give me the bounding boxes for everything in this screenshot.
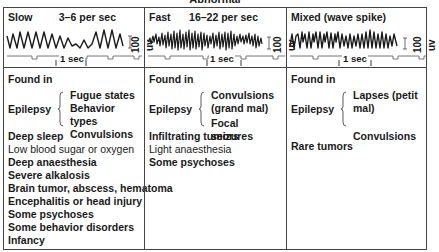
brace-icon bbox=[341, 91, 347, 127]
condition-item: Some behavior disorders bbox=[8, 221, 140, 234]
time-scale-label: 1 sec bbox=[59, 53, 85, 64]
column-slow: Slow 3–6 per sec 1 sec 100 uv Found in E… bbox=[4, 8, 144, 249]
wave-rate-label: 3–6 per sec bbox=[59, 11, 116, 23]
wave-type-label: Slow bbox=[8, 11, 33, 23]
epilepsy-group: Epilepsy Fugue states Behavior types Con… bbox=[8, 89, 140, 130]
found-in-heading: Found in bbox=[291, 73, 422, 86]
condition-item: Encephalitis or head injury bbox=[8, 195, 140, 208]
column-fast: Fast 16–22 per sec 1 sec 100 uv Found in… bbox=[144, 8, 286, 249]
brace-icon bbox=[58, 91, 64, 127]
amplitude-scale-label: 100 uv bbox=[271, 30, 285, 60]
epilepsy-item: Convulsions bbox=[211, 89, 282, 102]
column-mixed: Mixed (wave spike) 1 sec 100 uv Found in… bbox=[286, 8, 426, 249]
trace-cell-slow: Slow 3–6 per sec 1 sec 100 uv bbox=[4, 8, 144, 68]
epilepsy-label: Epilepsy bbox=[149, 103, 192, 116]
epilepsy-item: Behavior types bbox=[70, 102, 140, 128]
wave-type-label: Mixed (wave spike) bbox=[291, 11, 386, 23]
epilepsy-item: Lapses (petit mal) bbox=[353, 89, 422, 115]
section-title: Abnormal bbox=[0, 0, 430, 5]
amplitude-scale-label: 100 uv bbox=[411, 30, 425, 60]
amplitude-scale-label: 100 uv bbox=[129, 30, 143, 60]
time-scale-label: 1 sec bbox=[209, 53, 235, 64]
condition-item: Deep anaesthesia bbox=[8, 156, 140, 169]
epilepsy-item: Focal seizures bbox=[211, 117, 282, 143]
eeg-abnormal-table: Slow 3–6 per sec 1 sec 100 uv Found in E… bbox=[3, 7, 427, 250]
epilepsy-item: (grand mal) bbox=[211, 102, 282, 115]
condition-item: Infancy bbox=[8, 234, 140, 247]
found-in-mixed: Found in Epilepsy Lapses (petit mal) Con… bbox=[287, 68, 426, 249]
condition-item: Some psychoses bbox=[8, 208, 140, 221]
condition-item: Light anaesthesia bbox=[149, 143, 282, 156]
found-in-fast: Found in Epilepsy Convulsions (grand mal… bbox=[145, 68, 286, 249]
wave-type-label: Fast bbox=[149, 11, 171, 23]
epilepsy-group: Epilepsy Convulsions (grand mal) Focal s… bbox=[149, 89, 282, 130]
found-in-heading: Found in bbox=[8, 73, 140, 86]
condition-item: Brain tumor, abscess, hematoma bbox=[8, 182, 140, 195]
epilepsy-item: Convulsions bbox=[353, 130, 422, 143]
trace-cell-mixed: Mixed (wave spike) 1 sec 100 uv bbox=[287, 8, 426, 68]
trace-cell-fast: Fast 16–22 per sec 1 sec 100 uv bbox=[145, 8, 286, 68]
brace-icon bbox=[199, 91, 205, 127]
condition-item: Low blood sugar or oxygen bbox=[8, 143, 140, 156]
epilepsy-item: Convulsions bbox=[70, 128, 140, 141]
epilepsy-label: Epilepsy bbox=[291, 103, 334, 116]
epilepsy-item: Fugue states bbox=[70, 89, 140, 102]
epilepsy-group: Epilepsy Lapses (petit mal) Convulsions bbox=[291, 89, 422, 130]
condition-item: Some psychoses bbox=[149, 156, 282, 169]
epilepsy-item-spacer bbox=[353, 115, 422, 128]
epilepsy-label: Epilepsy bbox=[8, 103, 51, 116]
found-in-heading: Found in bbox=[149, 73, 282, 86]
found-in-slow: Found in Epilepsy Fugue states Behavior … bbox=[4, 68, 144, 249]
time-scale-label: 1 sec bbox=[342, 53, 368, 64]
wave-rate-label: 16–22 per sec bbox=[189, 11, 258, 23]
condition-item: Severe alkalosis bbox=[8, 169, 140, 182]
